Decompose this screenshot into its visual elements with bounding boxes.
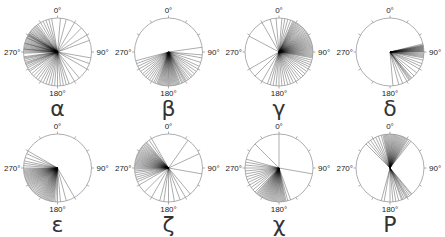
- tick-mark: [75, 197, 76, 199]
- tick-mark: [198, 185, 200, 186]
- direction-lines: [136, 47, 203, 86]
- tick-mark: [247, 150, 249, 151]
- circular-plot-2: 0°90°180°270°γ: [225, 6, 330, 121]
- tick-mark: [261, 81, 262, 83]
- tick-mark: [87, 150, 89, 151]
- tick-mark: [419, 185, 421, 186]
- circular-plot-4: 0°90°180°270°ε: [4, 122, 109, 237]
- tick-mark: [358, 150, 360, 151]
- tick-mark: [198, 34, 200, 35]
- plot-title: α: [50, 96, 65, 121]
- label-0-deg: 0°: [165, 122, 173, 131]
- tick-mark: [247, 185, 249, 186]
- tick-mark: [261, 20, 262, 22]
- label-90-deg: 90°: [429, 48, 441, 57]
- tick-mark: [372, 81, 373, 83]
- label-270-deg: 270°: [115, 48, 132, 57]
- tick-mark: [296, 136, 297, 138]
- label-270-deg: 270°: [4, 164, 21, 173]
- tick-mark: [407, 136, 408, 138]
- tick-mark: [39, 136, 40, 138]
- tick-mark: [247, 34, 249, 35]
- label-270-deg: 270°: [4, 48, 21, 57]
- tick-mark: [372, 136, 373, 138]
- circular-plot-1: 0°90°180°270°β: [115, 6, 220, 121]
- label-0-deg: 0°: [165, 6, 173, 15]
- tick-mark: [26, 34, 28, 35]
- label-90-deg: 90°: [97, 48, 109, 57]
- label-270-deg: 270°: [336, 48, 353, 57]
- label-0-deg: 0°: [386, 6, 394, 15]
- plot-title: χ: [273, 212, 286, 237]
- circular-plots-grid: 0°90°180°270°α0°90°180°270°β0°90°180°270…: [0, 0, 445, 237]
- tick-mark: [137, 185, 139, 186]
- circular-plot-5: 0°90°180°270°ζ: [115, 122, 220, 237]
- label-0-deg: 0°: [386, 122, 394, 131]
- direction-lines: [366, 134, 412, 202]
- tick-mark: [150, 136, 151, 138]
- tick-mark: [186, 136, 187, 138]
- circular-plot-7: 0°90°180°270°Ρ: [336, 122, 441, 237]
- tick-mark: [308, 185, 310, 186]
- tick-mark: [308, 69, 310, 70]
- tick-mark: [75, 81, 76, 83]
- tick-mark: [296, 197, 297, 199]
- tick-mark: [407, 81, 408, 83]
- tick-mark: [407, 197, 408, 199]
- tick-mark: [372, 20, 373, 22]
- tick-mark: [87, 69, 89, 70]
- label-90-deg: 90°: [208, 164, 220, 173]
- plot-title: γ: [272, 96, 285, 121]
- tick-mark: [198, 150, 200, 151]
- direction-lines: [24, 151, 75, 202]
- tick-mark: [150, 20, 151, 22]
- tick-mark: [247, 69, 249, 70]
- tick-mark: [261, 197, 262, 199]
- tick-mark: [198, 69, 200, 70]
- label-0-deg: 0°: [275, 6, 283, 15]
- plot-title: ε: [52, 212, 64, 237]
- label-90-deg: 90°: [318, 164, 330, 173]
- label-90-deg: 90°: [208, 48, 220, 57]
- tick-mark: [308, 34, 310, 35]
- plot-title: ζ: [163, 212, 175, 237]
- tick-mark: [186, 197, 187, 199]
- label-0-deg: 0°: [54, 6, 62, 15]
- tick-mark: [137, 150, 139, 151]
- label-270-deg: 270°: [115, 164, 132, 173]
- tick-mark: [358, 185, 360, 186]
- tick-mark: [87, 185, 89, 186]
- tick-mark: [137, 69, 139, 70]
- label-90-deg: 90°: [429, 164, 441, 173]
- tick-mark: [419, 34, 421, 35]
- circular-plot-6: 0°90°180°270°χ: [225, 122, 330, 237]
- circular-plot-3: 0°90°180°270°δ: [336, 6, 441, 121]
- tick-mark: [39, 81, 40, 83]
- tick-mark: [372, 197, 373, 199]
- tick-mark: [308, 150, 310, 151]
- label-0-deg: 0°: [54, 122, 62, 131]
- label-270-deg: 270°: [225, 48, 242, 57]
- tick-mark: [186, 81, 187, 83]
- label-90-deg: 90°: [97, 164, 109, 173]
- plot-title: Ρ: [383, 212, 396, 237]
- tick-mark: [358, 69, 360, 70]
- circular-plot-0: 0°90°180°270°α: [4, 6, 109, 121]
- plot-title: β: [161, 96, 175, 121]
- tick-mark: [87, 34, 89, 35]
- label-0-deg: 0°: [275, 122, 283, 131]
- tick-mark: [75, 20, 76, 22]
- tick-mark: [26, 69, 28, 70]
- tick-mark: [150, 197, 151, 199]
- plot-title: δ: [383, 96, 396, 121]
- tick-mark: [39, 20, 40, 22]
- tick-mark: [39, 197, 40, 199]
- tick-mark: [296, 81, 297, 83]
- label-270-deg: 270°: [225, 164, 242, 173]
- label-270-deg: 270°: [336, 164, 353, 173]
- tick-mark: [150, 81, 151, 83]
- label-90-deg: 90°: [318, 48, 330, 57]
- tick-mark: [26, 185, 28, 186]
- tick-mark: [137, 34, 139, 35]
- tick-mark: [419, 69, 421, 70]
